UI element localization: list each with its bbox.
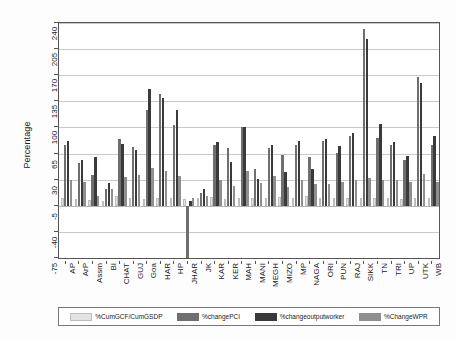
x-tick-mark	[282, 261, 283, 264]
x-tick-label: GUJ	[136, 263, 145, 299]
x-tick-mark	[173, 261, 174, 264]
legend-swatch	[70, 313, 92, 321]
bar-group	[140, 23, 154, 258]
x-tick-mark	[336, 261, 337, 264]
bar-group	[385, 23, 399, 258]
x-tick-label: JK	[204, 263, 213, 299]
bar-group	[303, 23, 317, 258]
x-tick-mark	[241, 261, 242, 264]
x-tick-label: CHAT	[122, 263, 131, 299]
x-tick-mark	[78, 261, 79, 264]
x-tick-label: Goa	[149, 263, 158, 299]
x-tick-mark	[160, 261, 161, 264]
bar-group	[195, 23, 209, 258]
x-tick-mark	[296, 261, 297, 264]
bar-group	[330, 23, 344, 258]
x-tick-label: WB	[434, 263, 443, 299]
x-tick-label: NAGA	[312, 263, 321, 299]
x-tick-mark	[133, 261, 134, 264]
x-tick-label: TN	[380, 263, 389, 299]
y-axis-title: Percentage	[22, 100, 32, 190]
x-tick-mark	[323, 261, 324, 264]
bar-group	[249, 23, 263, 258]
bar-group	[276, 23, 290, 258]
bar-group	[168, 23, 182, 258]
chart-figure: Percentage -75-40-53065100135170205240 A…	[0, 0, 456, 339]
legend-entry[interactable]: %CumGCF/CumGSDP	[70, 313, 162, 321]
x-tick-mark	[187, 261, 188, 264]
x-tick-label: UTK	[421, 263, 430, 299]
bar	[186, 206, 188, 259]
legend-swatch	[255, 313, 277, 321]
x-tick-label: PUN	[339, 263, 348, 299]
bar-group	[425, 23, 439, 258]
x-tick-mark	[391, 261, 392, 264]
bar-group	[100, 23, 114, 258]
gridline	[59, 258, 439, 259]
x-tick-label: MANI	[258, 263, 267, 299]
bar-group	[263, 23, 277, 258]
legend-entry[interactable]: %changePCI	[177, 313, 240, 321]
x-tick-label: MEGH	[271, 263, 280, 299]
legend-entry[interactable]: %changeoutputworker	[255, 313, 345, 321]
x-tick-mark	[268, 261, 269, 264]
chart-legend: %CumGCF/CumGSDP%changePCI%changeoutputwo…	[58, 307, 440, 326]
x-tick-label: MAH	[244, 263, 253, 299]
bar-group	[127, 23, 141, 258]
x-tick-mark	[92, 261, 93, 264]
bar-group	[371, 23, 385, 258]
x-tick-label: ArP	[81, 263, 90, 299]
x-tick-mark	[255, 261, 256, 264]
x-tick-label: JHAR	[190, 263, 199, 299]
x-tick-label: Assm	[95, 263, 104, 299]
x-tick-mark	[363, 261, 364, 264]
x-tick-label: AP	[68, 263, 77, 299]
x-tick-mark	[418, 261, 419, 264]
legend-label: %CumGCF/CumGSDP	[95, 313, 162, 320]
bar-group	[358, 23, 372, 258]
x-tick-label: KAR	[217, 263, 226, 299]
legend-entry[interactable]: %ChangeWPR	[359, 313, 428, 321]
bar-group	[344, 23, 358, 258]
x-tick-mark	[377, 261, 378, 264]
legend-swatch	[359, 313, 381, 321]
x-tick-label: MIZO	[285, 263, 294, 299]
x-tick-label: SIKK	[366, 263, 375, 299]
legend-label: %changeoutputworker	[280, 313, 345, 320]
bar-group	[222, 23, 236, 258]
bar-group	[317, 23, 331, 258]
bar-group	[113, 23, 127, 258]
x-tick-label: UP	[407, 263, 416, 299]
bar-group	[412, 23, 426, 258]
bar-group	[154, 23, 168, 258]
x-tick-mark	[119, 261, 120, 264]
bar-group	[73, 23, 87, 258]
x-tick-mark	[404, 261, 405, 264]
x-tick-mark	[228, 261, 229, 264]
x-tick-label: TRI	[394, 263, 403, 299]
x-tick-label: HAR	[163, 263, 172, 299]
x-tick-mark	[214, 261, 215, 264]
legend-label: %changePCI	[202, 313, 240, 320]
x-tick-label: MP	[299, 263, 308, 299]
legend-label: %ChangeWPR	[384, 313, 428, 320]
legend-swatch	[177, 313, 199, 321]
bar	[436, 182, 438, 206]
x-tick-mark	[309, 261, 310, 264]
bar	[183, 199, 185, 206]
x-tick-label: RAJ	[353, 263, 362, 299]
x-tick-label: HP	[176, 263, 185, 299]
plot-area	[58, 22, 440, 259]
x-tick-mark	[146, 261, 147, 264]
bar-group	[290, 23, 304, 258]
x-tick-mark	[201, 261, 202, 264]
x-axis-labels: APArPAssmBICHATGUJGoaHARHPJHARJKKARKERMA…	[58, 261, 440, 303]
x-tick-label: KER	[231, 263, 240, 299]
bar-group	[208, 23, 222, 258]
x-tick-mark	[431, 261, 432, 264]
x-tick-label: BI	[109, 263, 118, 299]
x-tick-mark	[350, 261, 351, 264]
bar-group	[398, 23, 412, 258]
bar-group	[181, 23, 195, 258]
bar-group	[86, 23, 100, 258]
